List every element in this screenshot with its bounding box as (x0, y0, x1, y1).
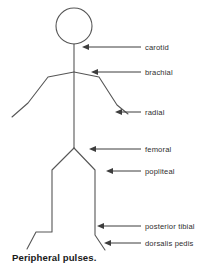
arrowhead-posterior-tibial (97, 223, 104, 229)
right-arm-line (74, 72, 128, 114)
stick-figure-diagram: carotid brachial radial femoral popl (0, 0, 213, 270)
annotation-brachial: brachial (91, 68, 173, 77)
arrowhead-radial (115, 109, 122, 115)
annotation-popliteal: popliteal (106, 167, 175, 176)
label-dorsalis-pedis: dorsalis pedis (145, 239, 194, 248)
annotation-carotid: carotid (82, 43, 169, 52)
head-icon (56, 8, 92, 44)
arrowhead-carotid (82, 44, 89, 50)
figure-caption: Peripheral pulses. (12, 252, 96, 263)
label-carotid: carotid (145, 43, 169, 52)
arrowhead-dorsalis-pedis (104, 240, 111, 246)
label-femoral: femoral (145, 145, 172, 154)
left-arm-line (12, 72, 74, 117)
annotation-femoral: femoral (89, 145, 172, 154)
peripheral-pulses-figure: carotid brachial radial femoral popl (0, 0, 213, 270)
body-group (12, 8, 128, 250)
label-popliteal: popliteal (145, 167, 175, 176)
right-leg-line (74, 148, 105, 250)
arrowhead-brachial (91, 69, 98, 75)
arrowhead-femoral (89, 146, 96, 152)
annotations-group: carotid brachial radial femoral popl (82, 43, 195, 248)
left-leg-line (27, 148, 74, 249)
annotation-dorsalis-pedis: dorsalis pedis (104, 239, 194, 248)
annotation-posterior-tibial: posterior tibial (97, 222, 195, 231)
arrowhead-popliteal (106, 168, 113, 174)
label-brachial: brachial (145, 68, 173, 77)
label-radial: radial (145, 108, 165, 117)
label-posterior-tibial: posterior tibial (145, 222, 195, 231)
